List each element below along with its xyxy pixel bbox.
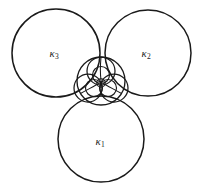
cusp-arc-up: [100, 57, 101, 81]
label-kappa-3: κ3: [50, 48, 59, 60]
figure-container: κ3 κ2 κ1: [0, 0, 202, 194]
apollonian-circle-diagram: [0, 0, 202, 194]
label-kappa-3-subscript: 3: [55, 52, 59, 61]
label-kappa-2: κ2: [142, 48, 151, 60]
label-kappa-2-subscript: 2: [147, 52, 151, 61]
label-kappa-1: κ1: [96, 136, 105, 148]
label-kappa-1-subscript: 1: [101, 140, 105, 149]
